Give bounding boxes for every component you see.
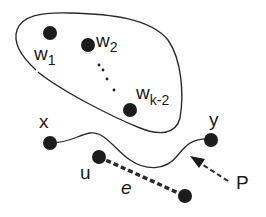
- graph-diagram: w1 w2 wk-2 x y u e P: [0, 0, 266, 217]
- label-e: e: [121, 177, 132, 198]
- label-w2: w2: [95, 30, 118, 55]
- node-x: [43, 136, 57, 150]
- label-x: x: [39, 111, 49, 132]
- node-e-end: [178, 189, 192, 203]
- arrow-p-shaft: [200, 163, 228, 181]
- label-y: y: [209, 109, 219, 130]
- ellipsis-dots: [98, 64, 116, 92]
- node-y: [204, 133, 218, 147]
- edge-e: [99, 157, 185, 196]
- label-p: P: [236, 172, 249, 193]
- node-wk-2: [123, 103, 137, 117]
- label-wk-2: wk-2: [135, 82, 169, 108]
- label-u: u: [80, 162, 91, 183]
- arrow-p-head-icon: [190, 156, 205, 168]
- node-w2: [81, 38, 95, 52]
- node-w1: [43, 26, 57, 40]
- node-u: [92, 150, 106, 164]
- label-w1: w1: [33, 43, 56, 68]
- path-p-curve: [50, 133, 211, 168]
